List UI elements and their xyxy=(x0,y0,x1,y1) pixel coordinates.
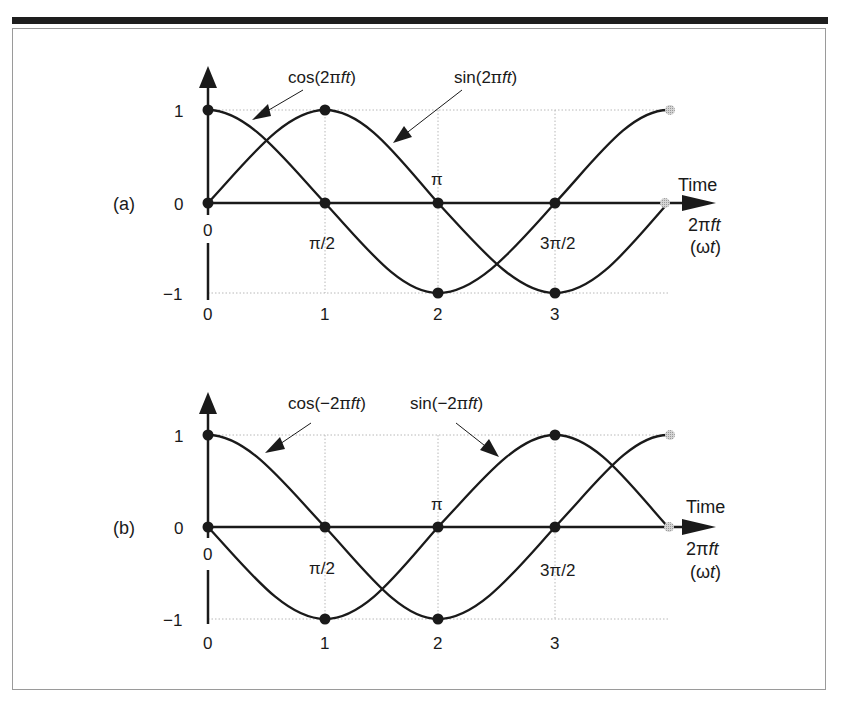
phase-tick-pi-half: π/2 xyxy=(309,234,335,253)
curve-label-cos: cos(−2πft) xyxy=(288,393,366,413)
callout-arrows xyxy=(252,90,462,143)
axis-label-2pift: 2πft xyxy=(686,539,719,559)
axis-label-time: Time xyxy=(678,175,717,195)
x-tick-2: 2 xyxy=(433,634,442,653)
panel-label: (b) xyxy=(113,518,135,538)
endpoint-markers xyxy=(660,105,675,208)
y-tick-neg1: −1 xyxy=(163,611,182,630)
axis-label-time: Time xyxy=(686,497,725,517)
curve-label-cos: cos(2πft) xyxy=(288,67,356,87)
y-tick-1: 1 xyxy=(174,102,183,121)
phase-tick-3pi-half: 3π/2 xyxy=(540,561,575,580)
axis-label-2pift: 2πft xyxy=(688,215,721,235)
x-tick-1: 1 xyxy=(320,305,329,324)
phase-tick-0: 0 xyxy=(203,545,212,564)
x-tick-2: 2 xyxy=(433,305,442,324)
panel-b: cos(−2πft) sin(−2πft) (b) 1 0 −1 0 π/2 π… xyxy=(113,392,725,653)
callout-arrows xyxy=(265,423,499,457)
axis-label-omega-t: (ωt) xyxy=(690,562,721,582)
y-tick-0: 0 xyxy=(174,519,183,538)
x-tick-3: 3 xyxy=(550,305,559,324)
phase-tick-0: 0 xyxy=(203,221,212,240)
phase-tick-pi: π xyxy=(431,495,443,514)
x-tick-1: 1 xyxy=(320,634,329,653)
y-tick-neg1: −1 xyxy=(163,285,182,304)
figure-svg: cos(2πft) sin(2πft) (a) 1 0 −1 0 π/2 π 3… xyxy=(0,0,843,705)
panel-label: (a) xyxy=(113,194,135,214)
y-tick-0: 0 xyxy=(174,195,183,214)
x-axis-arrow-icon xyxy=(682,519,716,535)
phase-tick-pi-half: π/2 xyxy=(309,559,335,578)
data-markers xyxy=(203,105,561,299)
x-tick-0: 0 xyxy=(203,305,212,324)
x-axis-arrow-icon xyxy=(682,195,716,211)
y-axis-arrow-icon xyxy=(199,392,217,414)
endpoint-markers xyxy=(664,430,675,532)
phase-tick-3pi-half: 3π/2 xyxy=(540,234,575,253)
x-tick-3: 3 xyxy=(550,634,559,653)
curve-label-sin: sin(2πft) xyxy=(454,67,517,87)
axis-label-omega-t: (ωt) xyxy=(690,237,721,257)
x-tick-0: 0 xyxy=(203,634,212,653)
panel-a: cos(2πft) sin(2πft) (a) 1 0 −1 0 π/2 π 3… xyxy=(113,66,721,324)
phase-tick-pi: π xyxy=(431,170,443,189)
y-axis-arrow-icon xyxy=(199,66,217,88)
y-tick-1: 1 xyxy=(174,427,183,446)
curve-label-sin: sin(−2πft) xyxy=(410,393,483,413)
